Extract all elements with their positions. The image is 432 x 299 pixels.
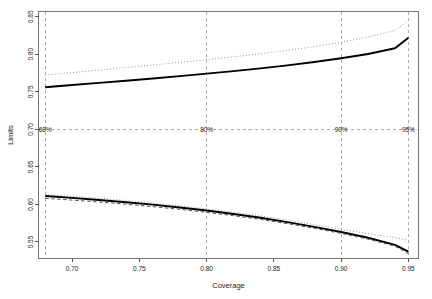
x-tick-label: 0.95 xyxy=(402,265,415,272)
x-tick-label: 0.90 xyxy=(335,265,348,272)
x-tick-label: 0.80 xyxy=(200,265,213,272)
y-tick-label: 0.75 xyxy=(27,85,34,98)
limits-vs-coverage-chart: 0.700.750.800.850.900.95 0.550.600.650.7… xyxy=(0,0,432,299)
plot-background xyxy=(0,0,432,299)
y-tick-label: 0.85 xyxy=(27,10,34,23)
x-axis-title: Coverage xyxy=(212,281,245,290)
annotation-95pct: 95% xyxy=(402,126,415,133)
y-tick-label: 0.70 xyxy=(27,123,34,136)
y-axis-title: Limits xyxy=(6,125,15,145)
x-tick-label: 0.85 xyxy=(268,265,281,272)
annotation-80pct: 80% xyxy=(200,126,213,133)
annotation-68pct: 68% xyxy=(39,126,52,133)
y-tick-label: 0.65 xyxy=(27,160,34,173)
annotation-90pct: 90% xyxy=(335,126,348,133)
y-tick-label: 0.60 xyxy=(27,198,34,211)
y-tick-label: 0.80 xyxy=(27,48,34,61)
x-tick-label: 0.70 xyxy=(66,265,79,272)
x-tick-label: 0.75 xyxy=(133,265,146,272)
y-tick-label: 0.55 xyxy=(27,235,34,248)
chart-figure: 0.700.750.800.850.900.95 0.550.600.650.7… xyxy=(0,0,432,299)
